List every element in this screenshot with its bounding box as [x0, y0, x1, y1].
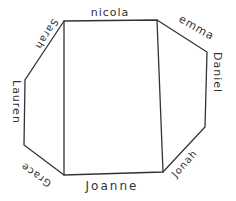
seating-diagram: nicola emma Daniel Jonah Joanne Grace La…: [0, 0, 236, 201]
outer-outline-right: [157, 20, 207, 172]
label-bottom: Joanne: [85, 179, 139, 193]
label-top-right: emma: [177, 12, 217, 43]
label-top-left: Sarah: [33, 17, 60, 52]
label-bottom-left: Grace: [18, 160, 53, 189]
table-rectangle: [64, 20, 163, 175]
label-right: Daniel: [211, 52, 224, 93]
label-bottom-right: Jonah: [169, 148, 200, 181]
label-left: Lauren: [10, 80, 23, 124]
label-top: nicola: [91, 6, 130, 19]
